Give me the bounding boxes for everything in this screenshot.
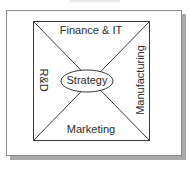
quadrant-label-top: Finance & IT	[33, 25, 149, 36]
quadrant-label-left: R&D	[38, 68, 49, 91]
center-label: Strategy	[61, 75, 113, 86]
quadrant-label-bottom: Marketing	[33, 124, 149, 135]
quadrant-label-right: Manufacturing	[135, 45, 146, 115]
